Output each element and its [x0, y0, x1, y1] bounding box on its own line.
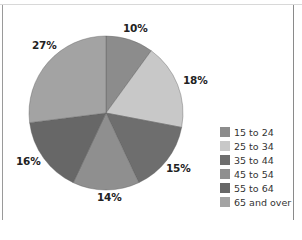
legend-item-15-24: 15 to 24 — [220, 125, 291, 139]
legend: 15 to 24 25 to 34 35 to 44 45 to 54 55 t… — [220, 125, 291, 209]
legend-item-65-over: 65 and over — [220, 195, 291, 209]
legend-label: 35 to 44 — [234, 155, 274, 166]
legend-label: 15 to 24 — [234, 127, 274, 138]
legend-swatch — [220, 169, 230, 179]
legend-swatch — [220, 197, 230, 207]
legend-label: 45 to 54 — [234, 169, 274, 180]
slice-label-15-24: 10% — [123, 22, 148, 34]
legend-label: 25 to 34 — [234, 141, 274, 152]
legend-item-55-64: 55 to 64 — [220, 181, 291, 195]
pie-slices — [29, 36, 183, 190]
legend-item-35-44: 35 to 44 — [220, 153, 291, 167]
legend-label: 65 and over — [234, 197, 291, 208]
legend-item-45-54: 45 to 54 — [220, 167, 291, 181]
slice-label-45-54: 14% — [97, 191, 122, 203]
slice-label-25-34: 18% — [183, 74, 208, 86]
legend-swatch — [220, 141, 230, 151]
legend-swatch — [220, 183, 230, 193]
legend-swatch — [220, 127, 230, 137]
legend-swatch — [220, 155, 230, 165]
legend-item-25-34: 25 to 34 — [220, 139, 291, 153]
slice-label-35-44: 15% — [166, 162, 191, 174]
legend-label: 55 to 64 — [234, 183, 274, 194]
slice-label-65-over: 27% — [32, 39, 57, 51]
slice-label-55-64: 16% — [16, 155, 41, 167]
